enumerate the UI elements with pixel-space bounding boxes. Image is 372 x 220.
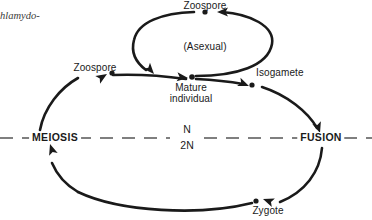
path-zygote-to-meiosis-upper: [52, 163, 78, 192]
path-zygote-to-meiosis-lower: [78, 192, 252, 211]
label-fusion: FUSION: [297, 132, 344, 144]
path-fusion-to-zygote: [280, 148, 322, 202]
figure-canvas: hlamydo-: [0, 0, 372, 220]
label-mature-individual-line2: individual: [170, 93, 213, 105]
path-meiosis-to-zoospore: [40, 78, 78, 130]
path-isogamete-to-fusion: [262, 87, 317, 128]
node-dot-isogamete: [249, 82, 254, 87]
label-isogamete: Isogamete: [256, 67, 304, 79]
label-mature-individual-line1: Mature: [175, 82, 207, 94]
arrowhead-into-meiosis: [46, 143, 58, 156]
label-asexual-annotation: (Asexual): [183, 41, 226, 53]
label-zygote: Zygote: [252, 205, 283, 217]
node-dot-mature-individual: [189, 74, 195, 80]
path-zoospore-to-mature: [113, 75, 186, 79]
label-meiosis: MEIOSIS: [29, 132, 81, 144]
label-haploid-n: N: [180, 124, 194, 136]
label-zoospore-asexual: Zoospore: [183, 0, 226, 12]
label-zoospore-sexual: Zoospore: [73, 62, 116, 74]
life-cycle-diagram-graphic: [0, 0, 372, 220]
node-dot-zygote: [253, 198, 258, 203]
label-diploid-2n: 2N: [177, 140, 197, 152]
